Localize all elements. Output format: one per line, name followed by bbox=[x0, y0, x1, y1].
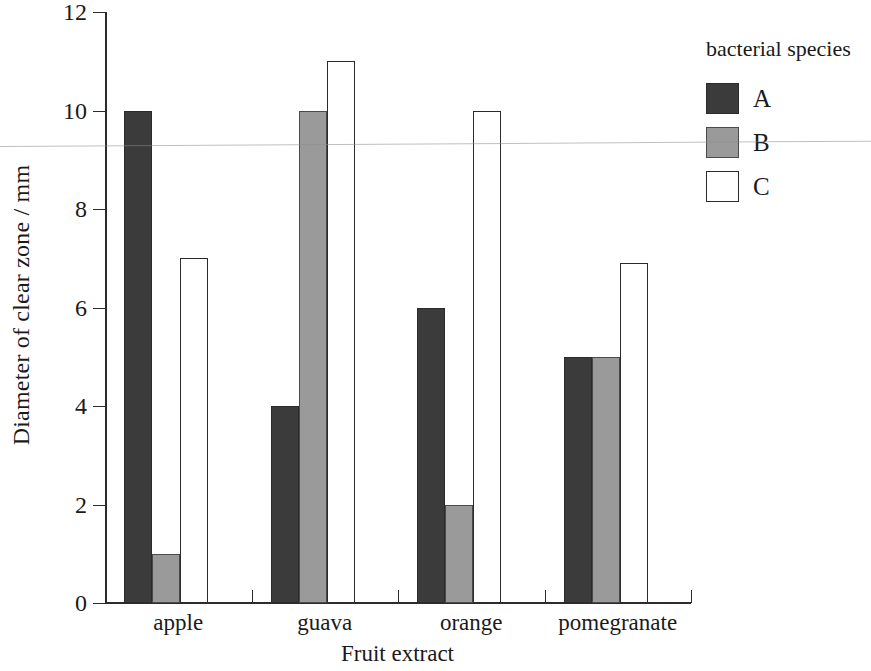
legend-entry-A: A bbox=[700, 76, 865, 120]
bar-pomegranate-A bbox=[564, 357, 592, 603]
legend-label-B: B bbox=[753, 130, 770, 155]
legend-entries: ABC bbox=[700, 76, 865, 208]
x-axis-label: Fruit extract bbox=[105, 640, 690, 668]
legend-entry-B: B bbox=[700, 120, 865, 164]
bar-pomegranate-C bbox=[620, 263, 648, 603]
bar-apple-A bbox=[124, 111, 152, 604]
y-axis-tick-label: 10 bbox=[45, 99, 87, 123]
y-axis-tick-label: 12 bbox=[45, 0, 87, 24]
x-axis-category-label-orange: orange bbox=[398, 608, 545, 638]
bars-layer bbox=[105, 12, 691, 603]
legend: bacterial species ABC bbox=[700, 34, 865, 208]
x-axis-category-label-apple: apple bbox=[105, 608, 252, 638]
legend-label-C: C bbox=[753, 174, 770, 199]
bar-guava-A bbox=[271, 406, 299, 603]
y-axis-tick bbox=[93, 111, 105, 112]
x-axis-category-label-pomegranate: pomegranate bbox=[545, 608, 692, 638]
y-axis-tick bbox=[93, 12, 105, 13]
y-axis-tick-label: 4 bbox=[45, 394, 87, 418]
y-axis-tick bbox=[93, 603, 105, 604]
x-axis-tick bbox=[691, 590, 692, 603]
legend-swatch-A bbox=[706, 83, 739, 114]
legend-entry-C: C bbox=[700, 164, 865, 208]
y-axis-tick bbox=[93, 209, 105, 210]
bar-chart-figure: Diameter of clear zone / mm 121086420 ap… bbox=[0, 0, 871, 671]
bar-guava-C bbox=[327, 61, 355, 603]
bar-apple-C bbox=[180, 258, 208, 603]
y-axis-tick bbox=[93, 505, 105, 506]
y-axis-label: Diameter of clear zone / mm bbox=[4, 0, 38, 610]
x-axis-category-label-guava: guava bbox=[252, 608, 399, 638]
y-axis-tick bbox=[93, 308, 105, 309]
legend-swatch-C bbox=[706, 171, 739, 202]
bar-orange-B bbox=[445, 505, 473, 604]
bar-apple-B bbox=[152, 554, 180, 603]
bar-pomegranate-B bbox=[592, 357, 620, 603]
bar-guava-B bbox=[299, 111, 327, 604]
y-axis-tick-label: 2 bbox=[45, 493, 87, 517]
legend-title: bacterial species bbox=[706, 34, 865, 64]
y-axis-tick bbox=[93, 406, 105, 407]
y-axis-tick-label: 6 bbox=[45, 296, 87, 320]
y-axis-tick-label: 0 bbox=[45, 591, 87, 615]
legend-swatch-B bbox=[706, 127, 739, 158]
y-axis-tick-label: 8 bbox=[45, 197, 87, 221]
bar-orange-C bbox=[473, 111, 501, 604]
legend-label-A: A bbox=[753, 86, 771, 111]
bar-orange-A bbox=[417, 308, 445, 604]
